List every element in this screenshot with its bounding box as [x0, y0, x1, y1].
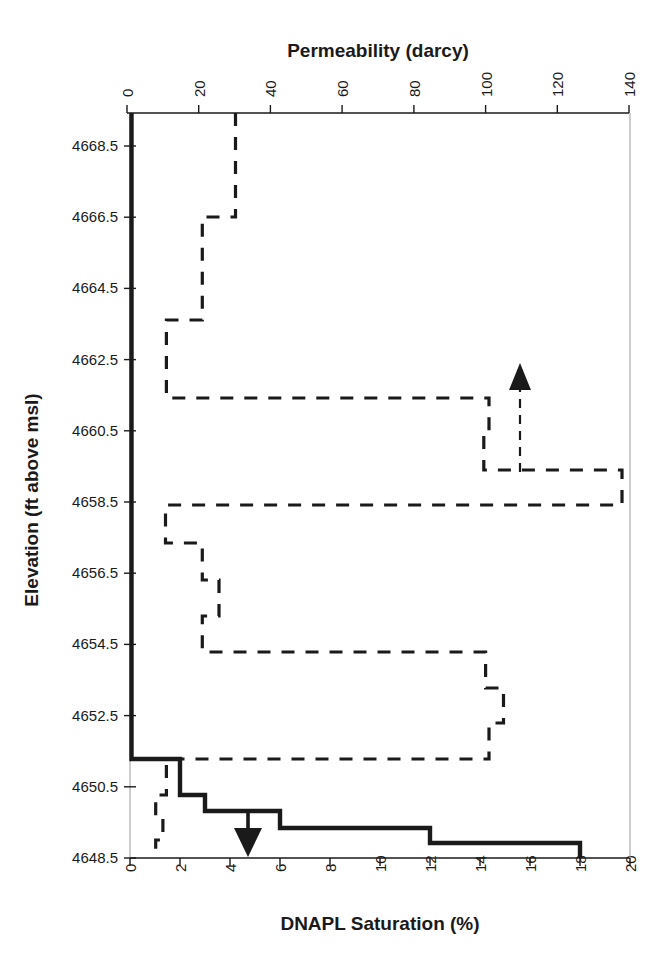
bottom-tick-label: 2 — [172, 864, 189, 872]
top-tick-label: 20 — [191, 80, 208, 97]
y-tick-label: 4668.5 — [72, 137, 118, 154]
y-tick-label: 4656.5 — [72, 564, 118, 581]
y-tick-label: 4662.5 — [72, 351, 118, 368]
bottom-tick-label: 16 — [522, 855, 539, 872]
y-tick-label: 4652.5 — [72, 707, 118, 724]
left-axis-tick-labels: 4668.5 4666.5 4664.5 4662.5 4660.5 4658.… — [72, 137, 118, 866]
y-tick-label: 4660.5 — [72, 422, 118, 439]
profile-chart-svg: 0 20 40 60 80 100 120 140 Permeability (… — [0, 0, 670, 978]
top-axis-title: Permeability (darcy) — [287, 40, 469, 61]
permeability-series-path — [156, 113, 622, 858]
bottom-tick-label: 6 — [272, 864, 289, 872]
top-tick-label: 0 — [119, 89, 136, 97]
dnapl-series-path — [132, 113, 581, 858]
top-tick-label: 80 — [406, 80, 423, 97]
top-tick-label: 100 — [478, 72, 495, 97]
permeability-direction-arrow — [509, 363, 531, 472]
bottom-tick-label: 12 — [422, 855, 439, 872]
left-axis: 4668.5 4666.5 4664.5 4662.5 4660.5 4658.… — [21, 113, 136, 866]
y-tick-label: 4654.5 — [72, 635, 118, 652]
y-tick-label: 4658.5 — [72, 493, 118, 510]
top-tick-label: 120 — [549, 72, 566, 97]
top-axis: 0 20 40 60 80 100 120 140 Permeability (… — [119, 40, 638, 113]
bottom-tick-label: 14 — [472, 855, 489, 872]
chart-canvas: 0 20 40 60 80 100 120 140 Permeability (… — [0, 0, 670, 978]
top-tick-label: 40 — [262, 80, 279, 97]
top-axis-tick-labels: 0 20 40 60 80 100 120 140 — [119, 72, 638, 97]
bottom-axis: 0 2 4 6 8 10 12 14 16 18 20 DNAPL Satura… — [122, 855, 639, 934]
y-tick-label: 4664.5 — [72, 279, 118, 296]
top-axis-ticks — [127, 105, 629, 113]
bottom-tick-label: 10 — [372, 855, 389, 872]
y-tick-label: 4650.5 — [72, 778, 118, 795]
figure-root: 0 20 40 60 80 100 120 140 Permeability (… — [0, 0, 670, 978]
top-tick-label: 140 — [621, 72, 638, 97]
bottom-tick-label: 0 — [122, 864, 139, 872]
bottom-tick-label: 4 — [222, 864, 239, 872]
y-axis-title: Elevation (ft above msl) — [21, 393, 42, 606]
y-tick-label: 4666.5 — [72, 208, 118, 225]
bottom-tick-label: 8 — [322, 864, 339, 872]
bottom-axis-title: DNAPL Saturation (%) — [280, 913, 479, 934]
top-tick-label: 60 — [334, 80, 351, 97]
dnapl-direction-arrow — [234, 810, 262, 857]
y-tick-label: 4648.5 — [72, 849, 118, 866]
